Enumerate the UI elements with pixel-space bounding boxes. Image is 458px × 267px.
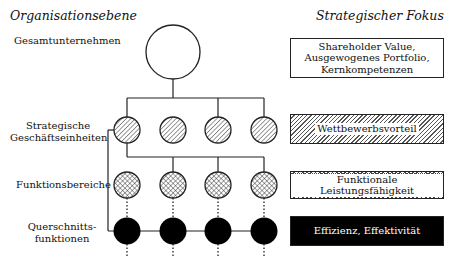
focus-box-gesamtunternehmen: Shareholder Value, Ausgewogenes Portfoli… [290,38,444,78]
nodes-funktionsbereiche [114,172,277,198]
node-qf-4 [251,218,278,245]
dotted-lines [127,198,264,258]
focus-box-wettbewerbsvorteil-text: Wettbewerbsvorteil [315,123,418,135]
node-gesamtunternehmen [146,25,200,79]
focus-box-gesamtunternehmen-text: Shareholder Value, Ausgewogenes Portfoli… [304,41,429,76]
focus-line-1: Shareholder Value, [304,41,429,53]
node-fb-2 [160,172,186,198]
focus-box-funktionale-leistungsfaehigkeit: Funktionale Leistungsfähigkeit [290,171,444,199]
focus-box-wettbewerbsvorteil: Wettbewerbsvorteil [290,114,444,144]
node-sge-2 [160,117,186,143]
node-qf-2 [160,218,187,245]
focus-box-effizienz: Effizienz, Effektivität [290,216,444,246]
node-sge-1 [114,117,140,143]
focus-box-funktionale-text: Funktionale Leistungsfähigkeit [291,174,443,197]
node-sge-4 [251,117,277,143]
focus-box-effizienz-text: Effizienz, Effektivität [312,225,423,237]
connector-lines [108,79,264,231]
node-fb-1 [114,172,140,198]
nodes-sge [114,117,277,143]
node-qf-3 [205,218,232,245]
node-fb-4 [251,172,277,198]
focus-line-2: Ausgewogenes Portfolio, [304,52,429,64]
focus-line-3: Kernkompetenzen [304,64,429,76]
node-qf-1 [114,218,141,245]
node-fb-3 [205,172,231,198]
node-sge-3 [205,117,231,143]
